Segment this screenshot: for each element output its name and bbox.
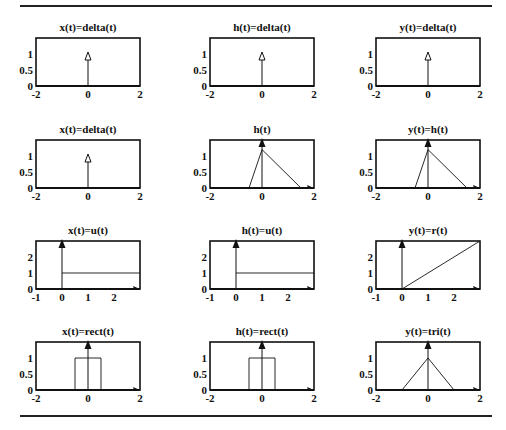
signal-panel: x(t)=rect(t)00.51-202 <box>19 325 143 404</box>
x-tick-label: 1 <box>85 291 91 303</box>
y-tick-label: 1 <box>28 267 34 279</box>
signal-panel: y(t)=r(t)012-1012 <box>368 224 481 303</box>
x-tick-label: 0 <box>259 88 265 100</box>
signal-panel: h(t)=u(t)012-1012 <box>202 224 315 303</box>
x-tick-label: -2 <box>31 190 41 202</box>
signal-panel: y(t)=tri(t)00.51-202 <box>359 325 483 404</box>
y-tick-label: 2 <box>28 251 34 263</box>
y-tick-label: 1 <box>368 48 374 60</box>
signal-panel: x(t)=delta(t)00.51-202 <box>19 21 143 100</box>
x-tick-label: 0 <box>425 88 431 100</box>
signal-curve <box>402 241 480 289</box>
y-tick-label: 2 <box>368 251 374 263</box>
x-tick-label: 2 <box>111 291 117 303</box>
x-tick-label: 2 <box>311 88 317 100</box>
y-tick-label: 1 <box>28 150 34 162</box>
x-tick-label: -1 <box>205 291 214 303</box>
x-tick-label: 2 <box>137 392 143 404</box>
panel-title: h(t)=rect(t) <box>236 325 289 338</box>
y-tick-label: 1 <box>202 150 208 162</box>
y-tick-label: 0.5 <box>19 64 33 76</box>
plot-frame <box>210 241 314 289</box>
x-tick-label: 0 <box>85 88 91 100</box>
x-tick-label: 0 <box>233 291 239 303</box>
panel-title: y(t)=tri(t) <box>405 325 451 338</box>
x-tick-label: 0 <box>85 392 91 404</box>
y-tick-label: 0.5 <box>19 166 33 178</box>
y-tick-label: 1 <box>368 150 374 162</box>
y-tick-label: 1 <box>202 352 208 364</box>
x-tick-label: 2 <box>477 392 483 404</box>
x-tick-label: 2 <box>137 190 143 202</box>
plot-frame <box>376 241 480 289</box>
signal-curve <box>415 150 467 188</box>
y-tick-label: 1 <box>368 267 374 279</box>
y-tick-label: 1 <box>368 352 374 364</box>
x-tick-label: 2 <box>477 88 483 100</box>
signal-panel: h(t)=delta(t)00.51-202 <box>193 21 317 100</box>
panel-title: x(t)=rect(t) <box>62 325 114 338</box>
x-tick-label: -2 <box>31 392 41 404</box>
y-tick-label: 1 <box>202 267 208 279</box>
signal-panel: x(t)=delta(t)00.51-202 <box>19 123 143 202</box>
x-tick-label: -2 <box>371 88 381 100</box>
y-tick-label: 1 <box>28 48 34 60</box>
x-tick-label: 1 <box>259 291 265 303</box>
panel-title: y(t)=h(t) <box>408 123 448 136</box>
x-tick-label: -2 <box>205 190 215 202</box>
signal-panel: x(t)=u(t)012-1012 <box>28 224 141 303</box>
y-tick-label: 1 <box>202 48 208 60</box>
signal-panel: h(t)=rect(t)00.51-202 <box>193 325 317 404</box>
x-tick-label: 2 <box>477 190 483 202</box>
x-tick-label: 2 <box>311 392 317 404</box>
y-tick-label: 0.5 <box>19 368 33 380</box>
panel-title: x(t)=u(t) <box>68 224 108 237</box>
y-tick-label: 0.5 <box>193 166 207 178</box>
signal-panel: h(t)00.51-202 <box>193 123 317 202</box>
x-tick-label: -2 <box>371 190 381 202</box>
y-tick-label: 0.5 <box>359 166 373 178</box>
panel-title: y(t)=delta(t) <box>400 21 457 34</box>
y-tick-label: 0.5 <box>359 368 373 380</box>
x-tick-label: 2 <box>311 190 317 202</box>
x-tick-label: 0 <box>259 190 265 202</box>
impulse-arrow-icon <box>259 52 265 60</box>
panel-title: h(t) <box>253 123 270 136</box>
x-tick-label: -2 <box>205 88 215 100</box>
x-tick-label: 0 <box>399 291 405 303</box>
y-tick-label: 2 <box>202 251 208 263</box>
x-tick-label: 2 <box>285 291 291 303</box>
panel-title: h(t)=delta(t) <box>233 21 291 34</box>
x-tick-label: 2 <box>451 291 457 303</box>
panel-title: x(t)=delta(t) <box>60 21 117 34</box>
signal-figure-grid: x(t)=delta(t)00.51-202h(t)=delta(t)00.51… <box>0 0 506 430</box>
signal-panel: y(t)=h(t)00.51-202 <box>359 123 483 202</box>
impulse-arrow-icon <box>425 52 431 60</box>
x-tick-label: 2 <box>137 88 143 100</box>
x-tick-label: 0 <box>425 190 431 202</box>
y-tick-label: 1 <box>28 352 34 364</box>
x-tick-label: 0 <box>59 291 65 303</box>
x-tick-label: -2 <box>371 392 381 404</box>
panel-title: x(t)=delta(t) <box>60 123 117 136</box>
x-tick-label: 0 <box>259 392 265 404</box>
panel-title: y(t)=r(t) <box>409 224 448 237</box>
x-tick-label: 0 <box>425 392 431 404</box>
impulse-arrow-icon <box>85 52 91 60</box>
plot-frame <box>36 241 140 289</box>
x-tick-label: -1 <box>31 291 40 303</box>
x-tick-label: 1 <box>425 291 431 303</box>
y-tick-label: 0.5 <box>193 368 207 380</box>
panel-title: h(t)=u(t) <box>242 224 283 237</box>
x-tick-label: 0 <box>85 190 91 202</box>
y-tick-label: 0.5 <box>359 64 373 76</box>
x-tick-label: -1 <box>371 291 380 303</box>
signal-panel: y(t)=delta(t)00.51-202 <box>359 21 483 100</box>
x-tick-label: -2 <box>31 88 41 100</box>
y-tick-label: 0.5 <box>193 64 207 76</box>
signal-curve <box>249 150 301 188</box>
impulse-arrow-icon <box>85 154 91 162</box>
x-tick-label: -2 <box>205 392 215 404</box>
